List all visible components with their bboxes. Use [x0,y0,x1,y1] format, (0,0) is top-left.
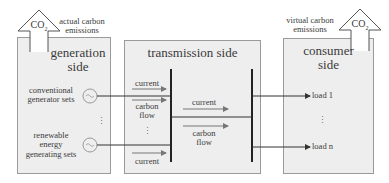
load-1-label: load 1 [312,91,333,100]
co2-text: CO [31,19,45,30]
transmission-side-title: transmission side [124,46,261,60]
title-line1: generation [48,46,108,60]
current-label-top: current [130,79,164,88]
renewable-generating-sets-label: renewable energy generating sets [20,131,82,159]
conventional-generator-sets-label: conventional generator sets [20,86,82,105]
co2-text: CO [352,18,366,29]
generation-ellipsis: ⋮ [97,117,105,127]
current-label-bottom: current [130,157,164,166]
co2-label-left: CO2 [28,19,50,33]
co2-label-right: CO2 [349,18,371,32]
current-label-middle: current [186,98,222,107]
label-line2: generator sets [20,95,82,104]
emission-line2: emissions [283,25,337,34]
consumer-side-title: consumer side [283,44,374,73]
carbon-flow-label-right: carbon flow [186,129,222,148]
emission-line2: emissions [56,26,108,35]
transmission-ellipsis: ⋮ [143,127,151,137]
title-line2: side [48,60,108,74]
label-line3: generating sets [20,150,82,159]
consumer-ellipsis: ⋮ [318,116,326,126]
title-line2: side [283,58,374,72]
actual-carbon-emissions-label: actual carbon emissions [56,17,108,36]
co2-subscript: 2 [365,25,368,31]
label-line2: flow [186,138,222,147]
generator-conventional-icon [83,89,97,103]
title-line1: consumer [283,44,374,58]
carbon-flow-label-left: carbon flow [130,102,164,121]
co2-subscript: 2 [44,26,47,32]
load-n-label: load n [312,142,333,151]
label-line2: flow [130,111,164,120]
generator-renewable-icon [83,138,97,152]
generation-side-title: generation side [48,46,108,75]
virtual-carbon-emissions-label: virtual carbon emissions [283,16,337,35]
